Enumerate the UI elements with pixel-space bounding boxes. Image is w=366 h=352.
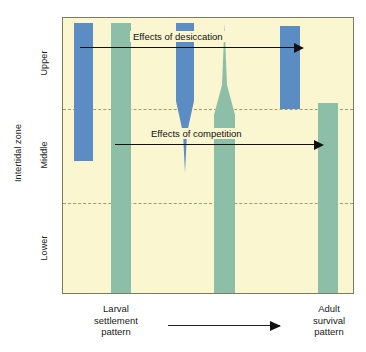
bar-species1-adult xyxy=(280,26,300,109)
zone-label-lower: Lower xyxy=(39,220,49,276)
desiccation-arrow xyxy=(80,41,305,55)
arrow-shaft xyxy=(115,144,315,145)
arrow-shaft xyxy=(168,325,280,326)
competition-arrow-label: Effects of competition xyxy=(148,128,245,139)
bar-species2-adult xyxy=(318,103,338,293)
zone-divider-middle-lower xyxy=(63,203,353,204)
caption-larval-settlement: Larval settlement pattern xyxy=(72,303,160,338)
caption-adult-survival: Adult survival pattern xyxy=(292,303,366,338)
zone-label-middle: Middle xyxy=(39,127,49,183)
plot-area: Effects of desiccation Effects of compet… xyxy=(62,17,354,294)
bar-species2-competition xyxy=(214,23,235,293)
arrow-head-icon xyxy=(270,321,281,331)
bar-species2-settlement xyxy=(111,23,131,293)
arrow-shaft xyxy=(80,47,295,48)
zone-label-upper: Upper xyxy=(39,35,49,91)
arrow-head-icon xyxy=(294,43,304,53)
process-direction-arrow xyxy=(168,320,280,332)
intertidal-zonation-figure: Intertidal zone Upper Middle Lower xyxy=(0,0,366,352)
arrow-head-icon xyxy=(314,140,324,150)
zone-divider-upper-middle xyxy=(63,109,353,110)
axis-title: Intertidal zone xyxy=(13,113,23,193)
competition-arrow xyxy=(115,138,325,152)
desiccation-arrow-label: Effects of desiccation xyxy=(130,31,226,42)
